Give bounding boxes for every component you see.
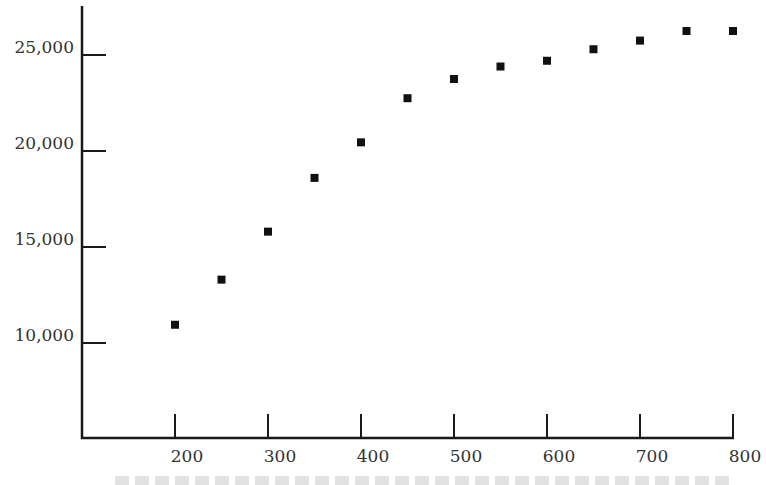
figure-caption-cropped [115, 476, 735, 485]
data-point [636, 37, 644, 45]
data-point [683, 27, 691, 35]
y-ticks: 10,00015,00020,00025,000 [15, 37, 106, 345]
x-ticks: 200300400500600700800 [171, 414, 761, 466]
data-point [497, 63, 505, 71]
y-tick-label: 20,000 [15, 133, 74, 153]
y-tick-label: 10,000 [15, 325, 74, 345]
data-point [543, 57, 551, 65]
scatter-chart: 10,00015,00020,00025,000 200300400500600… [0, 0, 766, 485]
data-point [264, 228, 272, 236]
data-point [404, 94, 412, 102]
data-point [729, 27, 737, 35]
y-tick-label: 25,000 [15, 37, 74, 57]
data-point [171, 321, 179, 329]
data-point [311, 174, 319, 182]
x-tick-label: 200 [171, 446, 203, 466]
axes [81, 6, 734, 439]
x-tick-label: 600 [543, 446, 575, 466]
x-tick-label: 500 [450, 446, 482, 466]
data-point [218, 276, 226, 284]
x-tick-label: 300 [264, 446, 296, 466]
data-point [357, 138, 365, 146]
x-tick-label: 700 [636, 446, 668, 466]
data-point [450, 75, 458, 83]
data-point [590, 45, 598, 53]
y-tick-label: 15,000 [15, 229, 74, 249]
x-tick-label: 400 [357, 446, 389, 466]
x-tick-label: 800 [729, 446, 761, 466]
data-points [171, 27, 737, 329]
